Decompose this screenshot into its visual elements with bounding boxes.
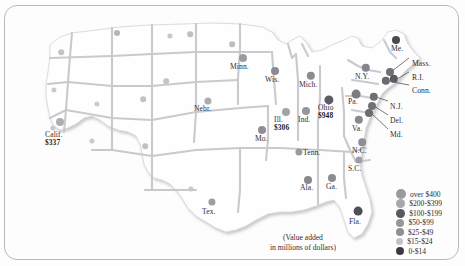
legend-row: $15-$24: [396, 237, 442, 246]
legend-row: $25-$49: [396, 228, 442, 237]
state-label-fla: Fla.: [349, 218, 361, 226]
legend-row: $50-$99: [396, 218, 442, 227]
state-abbr: Minn.: [230, 63, 249, 71]
state-label-md: Md.: [390, 131, 403, 139]
state-label-me: Me.: [391, 45, 403, 53]
state-label-nj: N.J.: [390, 103, 403, 111]
state-label-pa: Pa.: [348, 98, 358, 106]
map-caption: (Value added in millions of dollars): [244, 233, 362, 252]
state-label-conn: Conn.: [412, 87, 431, 95]
state-abbr: Ind.: [298, 116, 310, 124]
state-label-mich: Mich.: [299, 81, 317, 89]
state-label-tenn: Tenn.: [303, 149, 320, 157]
state-abbr: Tenn.: [303, 149, 320, 157]
legend-label: $50-$99: [408, 218, 433, 227]
state-abbr: Va.: [352, 125, 362, 133]
legend-label: $15-$24: [407, 237, 432, 246]
state-abbr: Mich.: [299, 81, 317, 89]
state-dot-unlabeled: [229, 41, 235, 47]
state-abbr: Ga.: [326, 183, 337, 191]
state-label-ri: R.I.: [412, 74, 424, 82]
state-abbr: Nebr.: [194, 105, 211, 113]
legend-label: $200-$399: [409, 199, 442, 208]
state-dot-ill: [282, 108, 290, 116]
state-dot-unlabeled: [187, 31, 193, 37]
legend-row: $200-$399: [396, 199, 442, 208]
state-abbr: N.C.: [352, 147, 367, 155]
state-dot-unlabeled: [114, 30, 120, 36]
state-label-mass: Mass.: [412, 60, 430, 68]
state-abbr: R.I.: [412, 74, 424, 82]
caption-line-1: (Value added: [283, 233, 323, 242]
state-abbr: N.Y.: [355, 73, 369, 81]
legend-swatch-dot: [396, 199, 405, 208]
state-dot-unlabeled: [142, 143, 148, 149]
state-label-ind: Ind.: [298, 116, 310, 124]
state-abbr: Md.: [390, 131, 403, 139]
state-dot-fla: [354, 207, 363, 216]
map-legend: over $400$200-$399$100-$199$50-$99$25-$4…: [396, 190, 442, 256]
figure-root: Calif.$337Tex.Nebr.Minn.Wis.Mich.Ill.$30…: [0, 0, 465, 266]
state-dot-unlabeled: [140, 96, 146, 102]
legend-swatch-dot: [396, 219, 404, 227]
state-label-mo: Mo.: [255, 135, 268, 143]
legend-label: $25-$49: [408, 228, 433, 237]
caption-line-2: in millions of dollars): [270, 243, 336, 252]
state-label-ga: Ga.: [326, 183, 337, 191]
state-label-nc: N.C.: [352, 147, 367, 155]
state-dot-unlabeled: [58, 49, 64, 55]
legend-swatch-dot: [396, 238, 403, 245]
us-map: Calif.$337Tex.Nebr.Minn.Wis.Mich.Ill.$30…: [0, 0, 465, 266]
state-dot-mo: [258, 126, 266, 134]
state-dot-me: [392, 36, 400, 44]
state-label-nebr: Nebr.: [194, 105, 211, 113]
state-abbr: Fla.: [349, 218, 361, 226]
state-label-tex: Tex.: [202, 208, 216, 216]
state-label-ohio: Ohio$948: [318, 104, 334, 119]
legend-label: $100-$199: [409, 209, 442, 218]
state-dot-ga: [328, 174, 336, 182]
state-value: $306: [274, 124, 289, 132]
state-dot-wis: [271, 67, 279, 75]
state-dot-unlabeled: [163, 78, 169, 84]
state-dot-nc: [358, 138, 366, 146]
state-abbr: Del.: [390, 117, 403, 125]
state-label-calif: Calif.$337: [45, 131, 63, 146]
state-abbr: Tex.: [202, 208, 216, 216]
state-abbr: S.C.: [348, 165, 362, 173]
state-value: $337: [45, 139, 63, 147]
state-label-ala: Ala.: [300, 184, 313, 192]
state-label-va: Va.: [352, 125, 362, 133]
legend-row: over $400: [396, 190, 442, 199]
state-dot-ind: [302, 107, 310, 115]
state-label-minn: Minn.: [230, 63, 249, 71]
state-abbr: Mass.: [412, 60, 430, 68]
legend-row: $100-$199: [396, 209, 442, 218]
state-value: $948: [318, 112, 334, 120]
legend-swatch-dot: [396, 209, 405, 218]
state-dot-md: [365, 109, 373, 117]
state-label-del: Del.: [390, 117, 403, 125]
state-abbr: Mo.: [255, 135, 268, 143]
legend-label: over $400: [410, 190, 441, 199]
state-abbr: N.J.: [390, 103, 403, 111]
state-abbr: Conn.: [412, 87, 431, 95]
state-dot-minn: [239, 54, 247, 62]
state-label-ny: N.Y.: [355, 73, 369, 81]
legend-swatch-dot: [396, 189, 406, 199]
state-abbr: Pa.: [348, 98, 358, 106]
state-abbr: Me.: [391, 45, 403, 53]
legend-swatch-dot: [396, 228, 404, 236]
state-dot-calif: [56, 118, 64, 126]
state-label-sc: S.C.: [348, 165, 362, 173]
state-label-ill: Ill.$306: [274, 116, 289, 131]
state-abbr: Wis.: [265, 76, 279, 84]
state-abbr: Ala.: [300, 184, 313, 192]
state-label-wis: Wis.: [265, 76, 279, 84]
legend-row: 0-$14: [396, 247, 442, 256]
legend-swatch-dot: [396, 247, 404, 255]
legend-label: 0-$14: [408, 247, 426, 256]
